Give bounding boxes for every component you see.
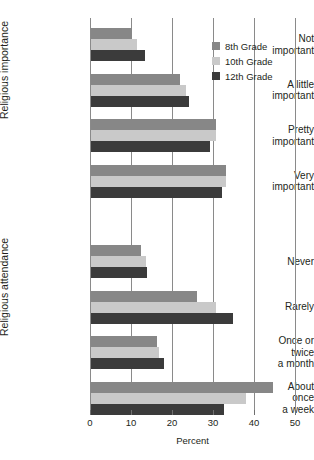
tick-40 xyxy=(254,410,255,415)
bar xyxy=(91,50,145,61)
legend-item[interactable]: 8th Grade xyxy=(212,40,273,52)
bar xyxy=(91,176,226,187)
legend-item[interactable]: 10th Grade xyxy=(212,55,273,67)
bar xyxy=(91,393,246,404)
bar xyxy=(91,85,186,96)
tick-30 xyxy=(213,410,214,415)
legend: 8th Grade10th Grade12th Grade xyxy=(212,40,273,85)
x-axis-title: Percent xyxy=(90,435,295,446)
bar xyxy=(91,74,180,85)
bar xyxy=(91,358,164,369)
chart-figure: Religious importance Religious attendanc… xyxy=(0,0,314,460)
bar xyxy=(91,141,210,152)
bar xyxy=(91,267,147,278)
bar xyxy=(91,130,216,141)
bar xyxy=(91,96,189,107)
panel-1-axis-title: Religious importance xyxy=(0,21,10,119)
tick-label-50: 50 xyxy=(280,417,310,428)
legend-label: 8th Grade xyxy=(225,41,267,52)
tick-50 xyxy=(295,410,296,415)
legend-swatch-icon xyxy=(212,72,220,80)
bar xyxy=(91,382,273,393)
legend-swatch-icon xyxy=(212,57,220,65)
gridline-50 xyxy=(295,18,296,410)
bar xyxy=(91,28,132,39)
bar xyxy=(91,39,137,50)
bar xyxy=(91,165,226,176)
legend-label: 10th Grade xyxy=(225,56,273,67)
tick-label-20: 20 xyxy=(157,417,187,428)
tick-label-30: 30 xyxy=(198,417,228,428)
bar xyxy=(91,313,233,324)
legend-swatch-icon xyxy=(212,42,220,50)
tick-label-10: 10 xyxy=(116,417,146,428)
bar xyxy=(91,347,159,358)
legend-label: 12th Grade xyxy=(225,71,273,82)
tick-20 xyxy=(172,410,173,415)
legend-item[interactable]: 12th Grade xyxy=(212,70,273,82)
bar xyxy=(91,291,197,302)
panel-2-axis-title: Religious attendance xyxy=(0,238,10,336)
bar xyxy=(91,302,216,313)
tick-0 xyxy=(90,410,91,415)
bar xyxy=(91,245,141,256)
bar xyxy=(91,256,146,267)
bar xyxy=(91,187,222,198)
tick-label-0: 0 xyxy=(75,417,105,428)
tick-label-40: 40 xyxy=(239,417,269,428)
tick-10 xyxy=(131,410,132,415)
bar xyxy=(91,336,157,347)
bar xyxy=(91,404,224,415)
bar xyxy=(91,119,216,130)
